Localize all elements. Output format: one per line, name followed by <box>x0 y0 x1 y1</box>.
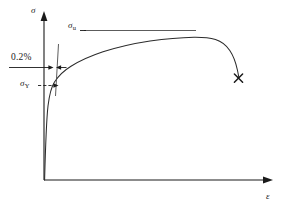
sigma-u-subscript: u <box>73 24 76 31</box>
y-axis-arrowhead <box>41 11 48 21</box>
sigma-y-label: σY <box>20 79 29 88</box>
offset-annotation-group <box>9 65 67 69</box>
sigma-u-symbol: σ <box>68 20 72 30</box>
offset-arrowhead-right <box>48 65 53 69</box>
stress-strain-curve <box>45 37 239 180</box>
sigma-u-label: σu <box>68 21 76 30</box>
offset-strain-label: 0.2% <box>11 53 32 63</box>
x-axis-label: ε <box>266 192 270 201</box>
stress-strain-curve-group <box>45 37 239 180</box>
stress-strain-diagram: σ ε σu σY 0.2% <box>0 0 282 212</box>
y-axis-label: σ <box>31 6 35 15</box>
x-axis-arrowhead <box>263 177 273 184</box>
axes-group <box>41 11 273 183</box>
sigma-y-leader-group <box>38 83 59 87</box>
sigma-y-symbol: σ <box>20 78 24 88</box>
offset-construction-group <box>56 44 59 96</box>
plot-area <box>0 0 282 212</box>
offset-line <box>56 44 59 96</box>
sigma-y-subscript: Y <box>25 82 30 89</box>
